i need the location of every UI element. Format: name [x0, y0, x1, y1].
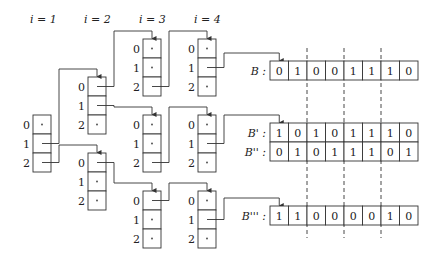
bit-value: 1: [387, 127, 394, 140]
bit-value: 0: [331, 127, 338, 140]
slot-label: 2: [133, 233, 140, 246]
bit-value: 1: [387, 210, 394, 223]
bit-value: 1: [276, 210, 283, 223]
bit-value: 1: [276, 127, 283, 140]
bit-value: 0: [331, 210, 338, 223]
slot-label: 0: [188, 195, 195, 208]
null-pointer-dot: [151, 238, 153, 240]
trie-node: 012: [133, 39, 161, 96]
trie-diagram: i = 1 i = 2 i = 3 i = 4 0120120120120120…: [0, 0, 439, 261]
bit-value: 0: [313, 210, 320, 223]
null-pointer-dot: [151, 48, 153, 50]
slot-label: 0: [188, 43, 195, 56]
array-label: B' :: [247, 127, 266, 140]
bit-value: 1: [350, 127, 357, 140]
slot-label: 0: [133, 195, 140, 208]
column-header-2: i = 2: [84, 13, 111, 26]
slot-label: 1: [133, 62, 140, 75]
bit-value: 0: [368, 210, 375, 223]
slot-label: 1: [78, 100, 85, 113]
slot-label: 2: [78, 195, 85, 208]
slot-label: 2: [188, 233, 195, 246]
bit-array-2: B'' :01011101: [244, 142, 418, 161]
slot-label: 0: [23, 119, 30, 132]
bit-value: 1: [405, 146, 412, 159]
null-pointer-dot: [96, 124, 98, 126]
slot-label: 0: [133, 119, 140, 132]
slot-label: 2: [133, 157, 140, 170]
bit-value: 0: [331, 65, 338, 78]
bit-arrays: B :01001110B' :10101110B'' :01011101B'''…: [241, 61, 418, 225]
slot-label: 2: [78, 119, 85, 132]
bit-value: 1: [368, 65, 375, 78]
null-pointer-dot: [96, 200, 98, 202]
slot-label: 0: [188, 119, 195, 132]
bit-value: 1: [368, 127, 375, 140]
array-label: B'' :: [244, 146, 266, 159]
null-pointer-dot: [96, 181, 98, 183]
bit-value: 1: [368, 146, 375, 159]
null-pointer-dot: [151, 143, 153, 145]
bit-value: 1: [313, 127, 320, 140]
bit-value: 1: [350, 146, 357, 159]
column-header-3: i = 3: [139, 13, 166, 26]
bit-value: 0: [387, 146, 394, 159]
null-pointer-dot: [41, 124, 43, 126]
bit-value: 0: [294, 127, 301, 140]
slot-label: 1: [188, 214, 195, 227]
slot-label: 1: [78, 176, 85, 189]
null-pointer-dot: [206, 48, 208, 50]
slot-label: 1: [188, 62, 195, 75]
trie-node: 012: [133, 115, 161, 172]
null-pointer-dot: [206, 238, 208, 240]
slot-label: 1: [188, 138, 195, 151]
bit-array-1: B' :10101110: [247, 123, 418, 142]
array-label: B :: [250, 65, 266, 78]
slot-label: 2: [133, 81, 140, 94]
slot-label: 2: [188, 81, 195, 94]
null-pointer-dot: [151, 124, 153, 126]
null-pointer-dot: [206, 124, 208, 126]
null-pointer-dot: [206, 86, 208, 88]
slot-label: 0: [78, 81, 85, 94]
slot-label: 0: [133, 43, 140, 56]
bit-value: 0: [350, 210, 357, 223]
slot-label: 1: [23, 138, 30, 151]
column-headers: i = 1 i = 2 i = 3 i = 4: [30, 13, 221, 26]
slot-label: 2: [23, 157, 30, 170]
bit-value: 0: [313, 146, 320, 159]
bit-array-3: B''' :11000010: [241, 206, 418, 225]
null-pointer-dot: [151, 67, 153, 69]
array-label: B''' :: [241, 210, 266, 223]
null-pointer-dot: [206, 162, 208, 164]
bit-value: 0: [405, 210, 412, 223]
slot-label: 1: [133, 138, 140, 151]
trie-node: 012: [78, 153, 106, 210]
bit-value: 1: [294, 210, 301, 223]
null-pointer-dot: [206, 200, 208, 202]
bit-value: 0: [405, 127, 412, 140]
pointer-arrow: [207, 115, 279, 144]
bit-value: 0: [276, 65, 283, 78]
bit-array-0: B :01001110: [250, 61, 418, 80]
bit-value: 0: [313, 65, 320, 78]
slot-label: 0: [78, 157, 85, 170]
bit-value: 1: [350, 65, 357, 78]
column-header-1: i = 1: [30, 13, 57, 26]
bit-value: 0: [405, 65, 412, 78]
trie-node: 012: [133, 191, 161, 248]
column-header-4: i = 4: [194, 13, 221, 26]
bit-value: 1: [387, 65, 394, 78]
bit-value: 1: [294, 65, 301, 78]
slot-label: 2: [188, 157, 195, 170]
pointer-arrow: [207, 53, 279, 68]
bit-value: 1: [331, 146, 338, 159]
slot-label: 1: [133, 214, 140, 227]
bit-value: 0: [276, 146, 283, 159]
bit-value: 1: [294, 146, 301, 159]
null-pointer-dot: [151, 219, 153, 221]
